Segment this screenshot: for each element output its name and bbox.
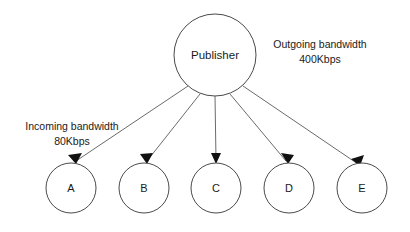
subscriber-a-label: A <box>67 182 75 194</box>
outgoing-bandwidth-value: 400Kbps <box>299 53 340 65</box>
edge-publisher-to-b <box>147 94 200 161</box>
arrowhead-c <box>211 153 221 164</box>
arrowhead-d <box>281 153 294 164</box>
diagram-canvas: Publisher A B C D E Outgoing bandwidth 4… <box>0 0 410 232</box>
edge-publisher-to-e <box>243 86 358 164</box>
edge-publisher-to-c <box>215 96 216 160</box>
outgoing-bandwidth-annotation: Outgoing bandwidth 400Kbps <box>273 38 367 65</box>
bandwidth-topology-diagram: Publisher A B C D E Outgoing bandwidth 4… <box>0 0 410 232</box>
node-e[interactable]: E <box>337 163 387 213</box>
node-d[interactable]: D <box>264 163 314 213</box>
subscriber-e-label: E <box>358 182 365 194</box>
publisher-label: Publisher <box>191 49 239 61</box>
node-c[interactable]: C <box>191 163 241 213</box>
node-b[interactable]: B <box>119 163 169 213</box>
subscriber-c-label: C <box>212 182 220 194</box>
arrowhead-b <box>140 153 153 164</box>
edge-publisher-to-d <box>230 94 286 161</box>
incoming-bandwidth-annotation: Incoming bandwidth 80Kbps <box>25 120 119 147</box>
incoming-bandwidth-value: 80Kbps <box>54 135 90 147</box>
subscriber-d-label: D <box>285 182 293 194</box>
outgoing-bandwidth-title: Outgoing bandwidth <box>273 38 367 50</box>
subscriber-b-label: B <box>140 182 147 194</box>
incoming-bandwidth-title: Incoming bandwidth <box>25 120 119 132</box>
node-a[interactable]: A <box>46 163 96 213</box>
node-publisher[interactable]: Publisher <box>174 14 256 96</box>
